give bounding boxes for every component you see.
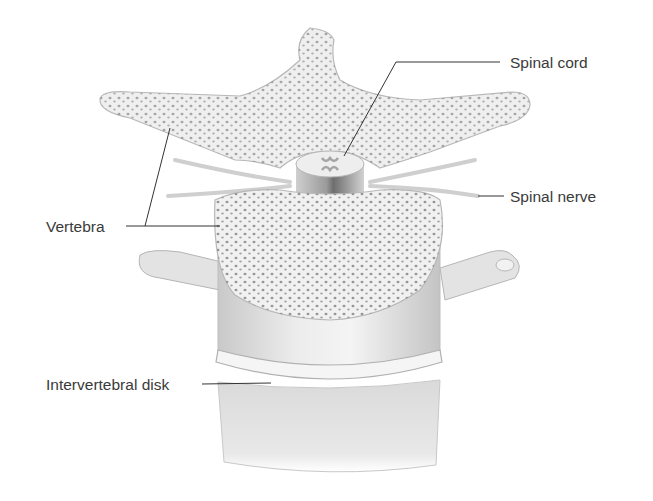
intervertebral-disk-leader xyxy=(202,383,271,384)
label-intervertebral-disk: Intervertebral disk xyxy=(46,377,169,393)
vertebra-leader-upper xyxy=(145,128,170,226)
label-vertebra: Vertebra xyxy=(46,219,105,235)
lower-vertebra xyxy=(218,380,440,472)
spinal-cord-shape xyxy=(296,151,364,194)
vertebra-diagram: Spinal cord Spinal nerve Vertebra Interv… xyxy=(0,0,653,501)
label-spinal-cord: Spinal cord xyxy=(510,55,588,71)
label-spinal-nerve: Spinal nerve xyxy=(510,189,596,205)
vertebral-arch xyxy=(100,28,530,168)
diagram-illustration xyxy=(0,0,653,501)
